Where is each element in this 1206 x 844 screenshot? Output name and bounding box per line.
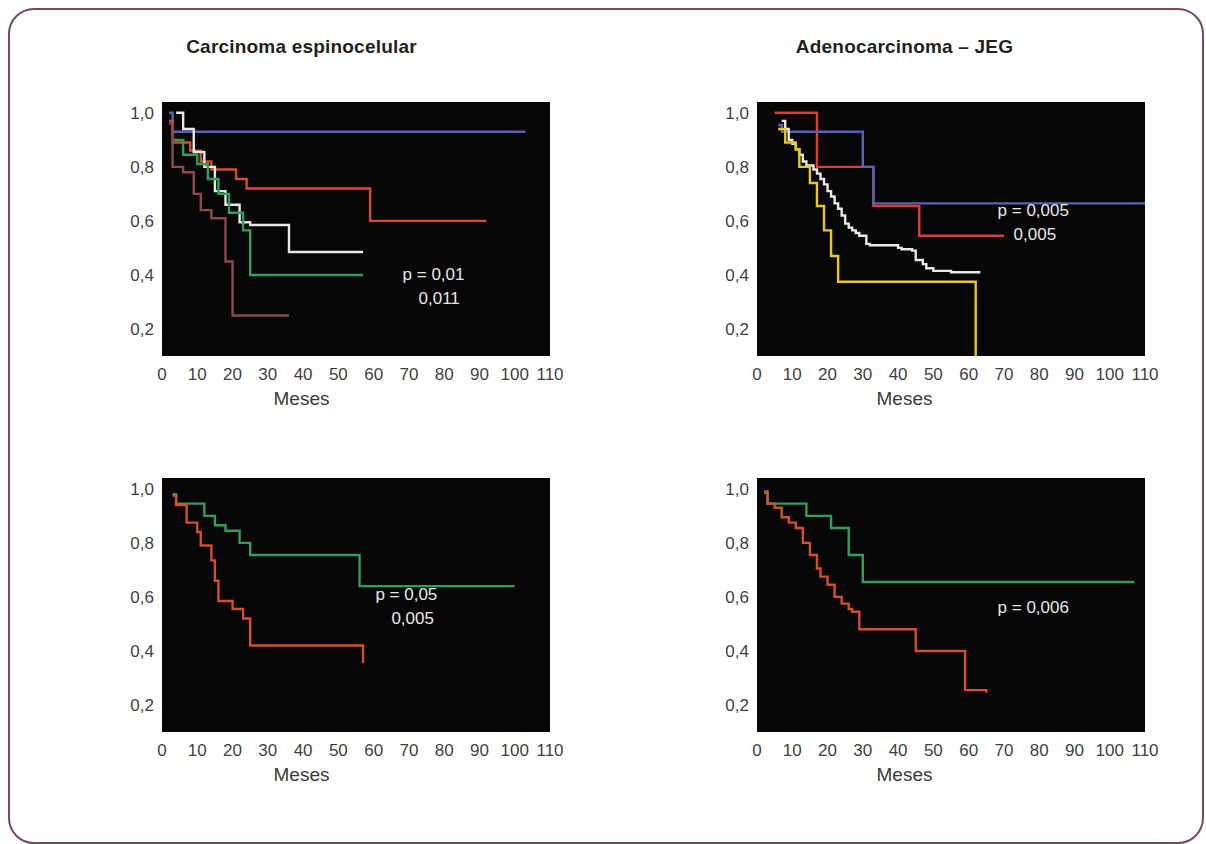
x-axis-label-bottom-left: Meses [0,764,603,786]
y-tick-label: 0,4 [725,266,749,285]
x-tick-label: 20 [223,741,242,760]
x-tick-label: 20 [223,365,242,384]
survival-chart-top-left: 1,00,80,60,40,20102030405060708090100110… [118,96,563,416]
p-value-annotation: p = 0,005 [998,201,1069,220]
survival-chart-bottom-right: 1,00,80,60,40,20102030405060708090100110… [713,472,1158,792]
y-tick-label: 0,8 [130,534,154,553]
x-tick-label: 70 [994,365,1013,384]
x-tick-label: 50 [329,741,348,760]
panel-bottom-left: 1,00,80,60,40,20102030405060708090100110… [0,422,603,844]
y-tick-label: 0,2 [130,320,154,339]
x-tick-label: 10 [783,741,802,760]
panel-top-right: Adenocarcinoma – JEG 1,00,80,60,40,20102… [603,0,1206,422]
x-tick-label: 40 [294,365,313,384]
x-tick-label: 20 [818,365,837,384]
p-value-annotation: p = 0,006 [998,598,1069,617]
x-tick-label: 0 [752,741,761,760]
x-tick-label: 0 [157,741,166,760]
survival-chart-top-right: 1,00,80,60,40,20102030405060708090100110… [713,96,1158,416]
y-tick-label: 0,2 [130,696,154,715]
x-axis-label-top-right: Meses [603,388,1206,410]
x-tick-label: 70 [399,741,418,760]
plot-background [162,478,550,732]
x-tick-label: 30 [258,741,277,760]
x-tick-label: 110 [1131,365,1158,384]
p-value-annotation: p = 0,01 [403,265,465,284]
y-tick-label: 0,8 [130,158,154,177]
x-tick-label: 60 [364,741,383,760]
x-axis-label-top-left: Meses [0,388,603,410]
x-tick-label: 10 [783,365,802,384]
y-tick-label: 0,4 [725,642,749,661]
plot-area-top-right: 1,00,80,60,40,20102030405060708090100110… [713,96,1158,416]
y-tick-label: 0,8 [725,534,749,553]
x-tick-label: 10 [188,365,207,384]
x-tick-label: 90 [470,365,489,384]
x-tick-label: 80 [435,365,454,384]
y-tick-label: 1,0 [725,104,749,123]
x-tick-label: 10 [188,741,207,760]
y-tick-label: 0,6 [725,588,749,607]
y-tick-label: 0,4 [130,642,154,661]
x-tick-label: 50 [924,741,943,760]
y-tick-label: 1,0 [725,480,749,499]
x-tick-label: 30 [258,365,277,384]
y-tick-label: 0,6 [725,212,749,231]
x-tick-label: 40 [889,741,908,760]
p-value-annotation: 0,011 [419,289,460,308]
x-tick-label: 80 [1030,741,1049,760]
x-tick-label: 40 [294,741,313,760]
x-tick-label: 50 [924,365,943,384]
y-tick-label: 0,4 [130,266,154,285]
x-tick-label: 90 [470,741,489,760]
x-tick-label: 0 [752,365,761,384]
y-tick-label: 0,8 [725,158,749,177]
x-tick-label: 80 [435,741,454,760]
x-tick-label: 70 [399,365,418,384]
survival-chart-bottom-left: 1,00,80,60,40,20102030405060708090100110… [118,472,563,792]
x-tick-label: 110 [536,741,563,760]
y-tick-label: 0,2 [725,696,749,715]
panel-grid: Carcinoma espinocelular 1,00,80,60,40,20… [0,0,1206,844]
p-value-annotation: 0,005 [1014,225,1057,244]
panel-title-top-right: Adenocarcinoma – JEG [603,36,1206,58]
x-tick-label: 60 [364,365,383,384]
p-value-annotation: p = 0,05 [375,585,437,604]
x-axis-label-bottom-right: Meses [603,764,1206,786]
y-tick-label: 0,6 [130,588,154,607]
plot-background [162,102,550,356]
y-tick-label: 0,6 [130,212,154,231]
x-tick-label: 30 [853,365,872,384]
x-tick-label: 110 [1131,741,1158,760]
x-tick-label: 80 [1030,365,1049,384]
y-tick-label: 0,2 [725,320,749,339]
y-tick-label: 1,0 [130,480,154,499]
x-tick-label: 100 [1096,365,1124,384]
x-tick-label: 0 [157,365,166,384]
x-tick-label: 100 [1096,741,1124,760]
x-tick-label: 50 [329,365,348,384]
x-tick-label: 110 [536,365,563,384]
x-tick-label: 70 [994,741,1013,760]
x-tick-label: 90 [1065,365,1084,384]
plot-area-bottom-left: 1,00,80,60,40,20102030405060708090100110… [118,472,563,792]
x-tick-label: 20 [818,741,837,760]
panel-top-left: Carcinoma espinocelular 1,00,80,60,40,20… [0,0,603,422]
x-tick-label: 40 [889,365,908,384]
x-tick-label: 60 [959,741,978,760]
x-tick-label: 100 [501,741,529,760]
plot-area-bottom-right: 1,00,80,60,40,20102030405060708090100110… [713,472,1158,792]
x-tick-label: 60 [959,365,978,384]
plot-background [757,102,1145,356]
x-tick-label: 30 [853,741,872,760]
plot-area-top-left: 1,00,80,60,40,20102030405060708090100110… [118,96,563,416]
panel-title-top-left: Carcinoma espinocelular [0,36,603,58]
panel-bottom-right: 1,00,80,60,40,20102030405060708090100110… [603,422,1206,844]
x-tick-label: 90 [1065,741,1084,760]
p-value-annotation: 0,005 [391,609,434,628]
x-tick-label: 100 [501,365,529,384]
y-tick-label: 1,0 [130,104,154,123]
